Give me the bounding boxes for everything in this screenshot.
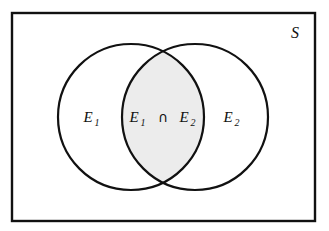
set-e1-label-subscript: 1 [95,117,100,128]
intersection-label-right-subscript: 2 [191,117,196,128]
set-e1-label-letter: E [82,109,92,125]
venn-diagram-canvas: S E 1 E 2 E 1 ∩ E 2 [0,0,329,231]
venn-diagram-figure: S E 1 E 2 E 1 ∩ E 2 [0,0,329,231]
intersection-operator-icon: ∩ [158,109,168,125]
intersection-label-left-letter: E [128,109,138,125]
intersection-label-left-subscript: 1 [141,117,146,128]
set-e2-label-letter: E [222,109,232,125]
intersection-label-right-letter: E [178,109,188,125]
sample-space-label: S [291,24,299,41]
set-e2-label-subscript: 2 [235,117,240,128]
